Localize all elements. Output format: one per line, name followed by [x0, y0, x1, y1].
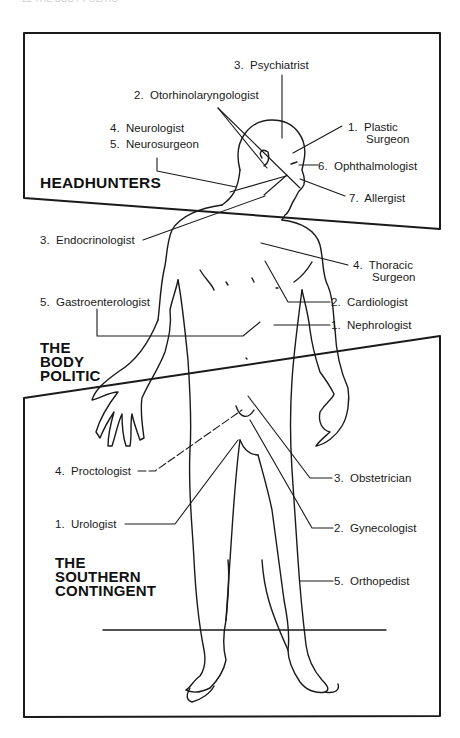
label-proctologist: 4. Proctologist: [55, 465, 131, 477]
label-plastic-surgeon: 1. PlasticSurgeon: [348, 121, 409, 145]
label-otorhinolaryngologist: 2. Otorhinolaryngologist: [134, 89, 259, 101]
leader-lines-southern: [125, 396, 333, 581]
label-gynecologist: 2. Gynecologist: [334, 522, 416, 534]
leader-lines-body-politic: [97, 196, 348, 336]
label-nephrologist: 1. Nephrologist: [331, 319, 412, 331]
label-obstetrician: 3. Obstetrician: [334, 472, 411, 484]
label-urologist: 1. Urologist: [55, 518, 116, 530]
label-endocrinologist: 3. Endocrinologist: [40, 234, 135, 246]
label-cardiologist: 2. Cardiologist: [331, 296, 408, 308]
label-allergist: 7. Allergist: [349, 192, 405, 204]
label-orthopedist: 5. Orthopedist: [334, 575, 409, 587]
label-thoracic-surgeon: 4. ThoracicSurgeon: [353, 259, 415, 283]
label-neurosurgeon: 5. Neurosurgeon: [110, 138, 199, 150]
section-title-body-politic: THE BODY POLITIC: [40, 341, 101, 383]
label-ophthalmologist: 6. Ophthalmologist: [318, 160, 417, 172]
label-gastroenterologist: 5. Gastroenterologist: [40, 296, 150, 308]
label-neurologist: 4. Neurologist: [110, 122, 184, 134]
section-title-southern-contingent: THE SOUTHERN CONTINGENT: [55, 556, 156, 598]
human-figure: [92, 120, 349, 702]
label-psychiatrist: 3. Psychiatrist: [234, 59, 309, 71]
section-title-headhunters: HEADHUNTERS: [40, 176, 161, 190]
